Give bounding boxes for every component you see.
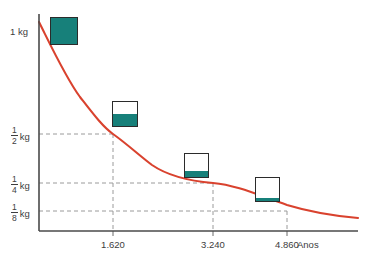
fraction-numerator: 1: [11, 203, 18, 212]
sample-fill-eighth-kg: [256, 198, 279, 201]
sample-fill-quarter-kg: [185, 171, 208, 177]
xtick-label-1620: 1.620: [101, 240, 125, 250]
sample-fill-1-kg: [51, 18, 77, 44]
fraction-one-half: 1 2: [11, 126, 18, 145]
fraction-denominator: 8: [11, 212, 18, 222]
fraction-denominator: 2: [11, 135, 18, 145]
unit-kg: kg: [20, 206, 30, 219]
fraction-numerator: 1: [11, 126, 18, 135]
unit-kg: kg: [20, 178, 30, 191]
fraction-one-eighth: 1 8: [11, 203, 18, 222]
decay-curve: [39, 22, 358, 218]
xtick-label-3240: 3.240: [201, 240, 225, 250]
ytick-label-quarter-kg: 1 4 kg: [11, 175, 30, 194]
sample-fill-half-kg: [113, 114, 137, 126]
ytick-label-eighth-kg: 1 8 kg: [11, 203, 30, 222]
xtick-label-4860: 4.860: [275, 240, 299, 250]
ytick-label-half-kg: 1 2 kg: [11, 126, 30, 145]
sample-half-kg: [112, 101, 138, 127]
decay-chart: 1 kg 1 2 kg 1 4 kg 1 8 kg 1.620 3.240 4.…: [0, 0, 365, 265]
sample-eighth-kg: [255, 177, 280, 202]
fraction-denominator: 4: [11, 184, 18, 194]
unit-kg: kg: [20, 129, 30, 142]
ytick-label-1kg: 1 kg: [10, 27, 28, 37]
fraction-numerator: 1: [11, 175, 18, 184]
sample-quarter-kg: [184, 153, 209, 178]
x-axis-title: Anos: [297, 240, 319, 250]
sample-1-kg: [50, 17, 78, 45]
fraction-one-quarter: 1 4: [11, 175, 18, 194]
